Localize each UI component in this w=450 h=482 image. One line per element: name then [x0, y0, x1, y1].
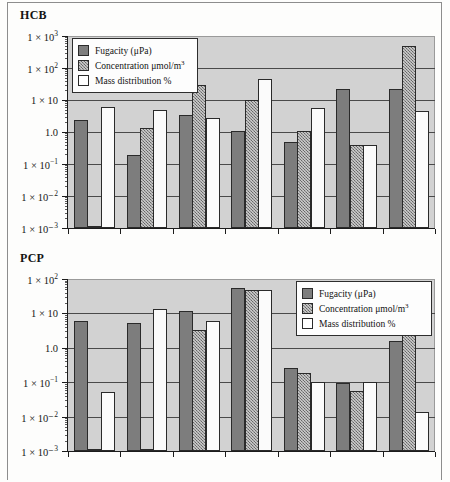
- plot-border-top-pcp: [68, 279, 435, 280]
- bar-pcp-g7-s3: [415, 412, 429, 451]
- y-axis-label: 1 × 10: [0, 95, 58, 106]
- x-axis-tick: [68, 229, 69, 234]
- y-axis-label: 1 × 10: [0, 308, 58, 319]
- bar-hcb-g7-s2: [402, 46, 416, 228]
- x-axis-tick: [383, 452, 384, 457]
- x-axis-tick: [225, 452, 226, 457]
- y-axis-label: 1.0: [0, 127, 58, 138]
- page-title-hcb: HCB: [20, 8, 47, 23]
- bar-pcp-g4-s1: [231, 288, 245, 451]
- bar-pcp-g4-s2: [245, 290, 259, 451]
- x-axis-line: [67, 451, 435, 452]
- legend-swatch-s2-icon: [78, 75, 89, 86]
- bar-pcp-g2-s3: [153, 309, 167, 451]
- bar-pcp-g3-s2: [192, 330, 206, 451]
- bar-pcp-g7-s1: [389, 341, 403, 451]
- y-axis-line: [67, 279, 68, 451]
- x-axis-tick: [225, 229, 226, 234]
- y-axis-label: 1 × 102: [0, 272, 58, 286]
- legend-label: Fugacity (μPa): [319, 289, 376, 299]
- legend-label: Fugacity (μPa): [95, 46, 152, 56]
- bar-pcp-g5-s1: [284, 368, 298, 451]
- bar-hcb-g1-s1: [74, 120, 88, 228]
- bar-pcp-g2-s1: [127, 323, 141, 451]
- bar-pcp-g1-s3: [101, 392, 115, 451]
- legend-item[interactable]: Mass distribution %: [78, 73, 190, 88]
- bar-pcp-g6-s1: [336, 383, 350, 451]
- x-axis-tick: [278, 452, 279, 457]
- x-axis-tick: [383, 229, 384, 234]
- panel-pcp: PCP 1 × 1021 × 101.01 × 10−11 × 10⁻21 × …: [0, 246, 450, 482]
- bar-hcb-g6-s1: [336, 89, 350, 228]
- bar-hcb-g4-s2: [245, 100, 259, 228]
- bar-hcb-g2-s2: [140, 128, 154, 228]
- bar-hcb-g3-s3: [206, 118, 220, 228]
- bar-hcb-g1-s3: [101, 107, 115, 228]
- bar-hcb-g7-s1: [389, 89, 403, 228]
- bar-hcb-g5-s1: [284, 142, 298, 228]
- y-axis-label: 1 × 10−1: [0, 375, 58, 389]
- legend-swatch-s0-icon: [302, 288, 313, 299]
- bar-pcp-g3-s3: [206, 321, 220, 451]
- x-axis-tick: [120, 229, 121, 234]
- plot-border-top-hcb: [68, 36, 435, 37]
- legend-item[interactable]: Concentration μmol/m3: [302, 301, 424, 316]
- bar-hcb-g7-s3: [415, 111, 429, 228]
- legend-swatch-s2-icon: [302, 318, 313, 329]
- y-axis-line: [67, 36, 68, 228]
- bar-hcb-g6-s2: [350, 145, 364, 228]
- x-axis-tick: [68, 452, 69, 457]
- bar-hcb-g5-s2: [297, 131, 311, 228]
- bar-hcb-g3-s1: [179, 115, 193, 228]
- bar-hcb-g6-s3: [363, 145, 377, 228]
- bar-pcp-g5-s2: [297, 373, 311, 451]
- x-axis-tick: [278, 229, 279, 234]
- x-axis-tick: [173, 452, 174, 457]
- bar-hcb-g2-s3: [153, 110, 167, 228]
- legend-item[interactable]: Fugacity (μPa): [78, 43, 190, 58]
- bar-pcp-g6-s3: [363, 382, 377, 451]
- y-axis-label: 1 × 102: [0, 61, 58, 75]
- bar-pcp-g6-s2: [350, 391, 364, 451]
- legend-item[interactable]: Concentration μmol/m3: [78, 58, 190, 73]
- x-axis-tick: [330, 229, 331, 234]
- x-axis-tick: [330, 452, 331, 457]
- x-axis-tick: [173, 229, 174, 234]
- x-axis-tick: [120, 452, 121, 457]
- bar-hcb-g5-s3: [311, 108, 325, 228]
- y-axis-label: 1 × 103: [0, 29, 58, 43]
- bar-hcb-g2-s1: [127, 155, 141, 228]
- y-axis-label: 1 × 10−1: [0, 157, 58, 171]
- legend-label: Mass distribution %: [319, 319, 396, 329]
- legend-label: Mass distribution %: [95, 76, 172, 86]
- legend-item[interactable]: Mass distribution %: [302, 316, 424, 331]
- legend-item[interactable]: Fugacity (μPa): [302, 286, 424, 301]
- legend-label: Concentration μmol/m3: [319, 302, 409, 314]
- legend-swatch-s1-icon: [302, 303, 313, 314]
- bar-hcb-g4-s3: [258, 79, 272, 228]
- x-axis-tick: [435, 452, 436, 457]
- bar-pcp-g4-s3: [258, 290, 272, 451]
- figure-root: HCB 1 × 1031 × 1021 × 101.01 × 10−11 × 1…: [0, 0, 450, 482]
- y-axis-label: 1 × 10⁻3: [0, 444, 58, 458]
- plot-border-right-pcp: [434, 279, 435, 451]
- bar-pcp-g5-s3: [311, 382, 325, 451]
- legend-swatch-s0-icon: [78, 45, 89, 56]
- y-axis-label: 1 × 10⁻2: [0, 189, 58, 203]
- legend-label: Concentration μmol/m3: [95, 59, 185, 71]
- x-axis-tick: [435, 229, 436, 234]
- bar-hcb-g4-s1: [231, 131, 245, 228]
- legend-hcb: Fugacity (μPa)Concentration μmol/m3Mass …: [72, 38, 198, 93]
- bar-hcb-g3-s2: [192, 85, 206, 228]
- x-axis-line: [67, 228, 435, 229]
- legend-swatch-s1-icon: [78, 60, 89, 71]
- bar-pcp-g3-s1: [179, 311, 193, 451]
- y-axis-label: 1 × 10⁻2: [0, 410, 58, 424]
- y-axis-label: 1.0: [0, 342, 58, 353]
- bar-pcp-g1-s1: [74, 321, 88, 451]
- page-title-pcp: PCP: [20, 251, 44, 266]
- y-axis-label: 1 × 10⁻3: [0, 221, 58, 235]
- panel-hcb: HCB 1 × 1031 × 1021 × 101.01 × 10−11 × 1…: [0, 0, 450, 246]
- legend-pcp: Fugacity (μPa)Concentration μmol/m3Mass …: [296, 281, 432, 336]
